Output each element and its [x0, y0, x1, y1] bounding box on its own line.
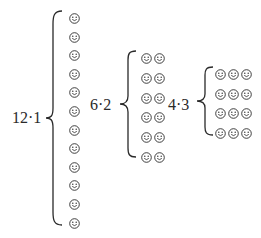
smiley-face-icon — [69, 180, 80, 191]
smiley-face-icon — [241, 108, 252, 119]
smiley-face-icon — [241, 128, 252, 139]
group-label-6x2: 6·2 — [90, 97, 111, 113]
smiley-face-icon — [69, 143, 80, 154]
smiley-face-icon — [141, 132, 152, 143]
smiley-face-icon — [141, 93, 152, 104]
smiley-face-icon — [241, 69, 252, 80]
smiley-face-icon — [141, 112, 152, 123]
smiley-face-icon — [69, 69, 80, 80]
smiley-face-icon — [154, 73, 165, 84]
smiley-face-icon — [69, 32, 80, 43]
smiley-face-icon — [154, 93, 165, 104]
smiley-face-icon — [154, 53, 165, 64]
smiley-face-icon — [69, 50, 80, 61]
smiley-face-icon — [215, 128, 226, 139]
smiley-face-icon — [141, 53, 152, 64]
smiley-face-icon — [154, 152, 165, 163]
smiley-face-icon — [154, 112, 165, 123]
smiley-face-icon — [215, 69, 226, 80]
group-label-12x1: 12·1 — [12, 110, 41, 126]
smiley-face-icon — [69, 13, 80, 24]
smiley-face-icon — [69, 106, 80, 117]
group-label-4x3: 4·3 — [168, 97, 189, 113]
smiley-face-icon — [241, 89, 252, 100]
smiley-face-icon — [228, 128, 239, 139]
curly-brace-icon — [118, 48, 138, 160]
curly-brace-icon — [195, 64, 215, 138]
smiley-face-icon — [228, 89, 239, 100]
smiley-face-icon — [215, 89, 226, 100]
smiley-face-icon — [141, 73, 152, 84]
smiley-face-icon — [154, 132, 165, 143]
smiley-face-icon — [69, 218, 80, 229]
smiley-face-icon — [69, 87, 80, 98]
smiley-face-icon — [228, 108, 239, 119]
smiley-face-icon — [69, 125, 80, 136]
smiley-face-icon — [69, 162, 80, 173]
smiley-face-icon — [228, 69, 239, 80]
smiley-face-icon — [215, 108, 226, 119]
smiley-face-icon — [141, 152, 152, 163]
smiley-face-icon — [69, 199, 80, 210]
curly-brace-icon — [44, 8, 64, 228]
